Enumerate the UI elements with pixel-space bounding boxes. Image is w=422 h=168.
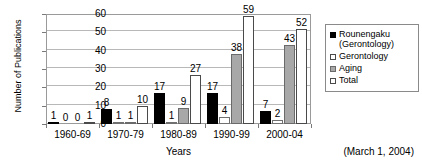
y-tick-label: 30: [78, 64, 106, 74]
bar-value-label: 17: [203, 82, 222, 92]
legend-swatch-icon: [330, 54, 336, 60]
y-axis-title: Number of Publications: [13, 1, 23, 131]
x-tick-mark: [152, 124, 153, 128]
legend-swatch-icon: [330, 66, 336, 72]
legend-item: Gerontology: [330, 51, 418, 61]
legend-label: Aging: [339, 63, 362, 73]
y-tick-mark: [42, 32, 46, 33]
x-tick-mark: [46, 124, 47, 128]
x-tick-mark: [99, 124, 100, 128]
bar-value-label: 27: [186, 64, 205, 74]
x-axis-title: Years: [46, 146, 311, 157]
chart-figure: Number of Publications 0102030405060 100…: [0, 0, 422, 168]
bar-value-label: 1: [80, 111, 99, 121]
y-tick-label: 50: [78, 27, 106, 37]
legend-item: Aging: [330, 63, 418, 73]
bar: [272, 120, 283, 124]
x-tick-mark: [258, 124, 259, 128]
bar-value-label: 59: [239, 5, 258, 15]
y-tick-mark: [42, 51, 46, 52]
legend-label: Rounengaku (Gerontology): [339, 29, 394, 49]
legend-swatch-icon: [330, 78, 336, 84]
y-tick-mark: [42, 106, 46, 107]
y-tick-mark: [42, 87, 46, 88]
y-tick-label: 60: [78, 9, 106, 19]
bar: [125, 122, 136, 124]
x-tick-mark: [311, 124, 312, 128]
bar-value-label: 52: [292, 18, 311, 28]
bar: [84, 122, 95, 124]
bar: [178, 108, 189, 125]
bar-value-label: 8: [97, 98, 116, 108]
y-tick-mark: [42, 69, 46, 70]
x-tick-label: 1990-99: [205, 129, 258, 140]
y-tick-mark: [42, 14, 46, 15]
x-tick-label: 1980-89: [152, 129, 205, 140]
chart-legend: Rounengaku (Gerontology)GerontologyAging…: [325, 24, 419, 92]
x-tick-label: 1960-69: [46, 129, 99, 140]
bar: [243, 16, 254, 124]
bar-value-label: 17: [150, 82, 169, 92]
legend-swatch-icon: [330, 32, 336, 38]
y-tick-label: 20: [78, 82, 106, 92]
legend-item: Rounengaku (Gerontology): [330, 29, 418, 49]
bar: [190, 75, 201, 125]
bar: [166, 122, 177, 124]
footnote-date: (March 1, 2004): [343, 146, 414, 157]
y-tick-label: 40: [78, 46, 106, 56]
x-tick-label: 1970-79: [99, 129, 152, 140]
x-tick-mark: [205, 124, 206, 128]
bar: [296, 29, 307, 124]
legend-item: Total: [330, 75, 418, 85]
legend-label: Total: [339, 75, 358, 85]
bar: [219, 117, 230, 124]
bar: [231, 54, 242, 124]
x-tick-label: 2000-04: [258, 129, 311, 140]
legend-label: Gerontology: [339, 51, 388, 61]
bar: [284, 45, 295, 124]
bar: [113, 122, 124, 124]
bar: [137, 106, 148, 124]
bar-value-label: 10: [133, 95, 152, 105]
